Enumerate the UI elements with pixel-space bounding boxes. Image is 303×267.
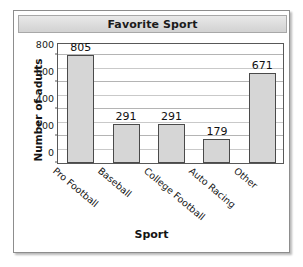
bar-group[interactable]: 671 [249, 42, 276, 163]
x-axis-category-labels: Pro FootballBaseballCollege FootballAuto… [57, 165, 284, 227]
bar-value-label: 291 [161, 110, 182, 123]
bar[interactable] [249, 73, 276, 163]
chart-card: Favorite Sport Number of adults 02004006… [13, 10, 290, 253]
bar-value-label: 291 [116, 110, 137, 123]
bar-value-label: 179 [206, 125, 227, 138]
y-tick-label: 0 [48, 147, 54, 158]
plot-area: 0200400600800 805291291179671 [57, 43, 284, 164]
bar-group[interactable]: 291 [113, 42, 140, 163]
chart-title: Favorite Sport [107, 18, 197, 31]
bar[interactable] [67, 55, 94, 163]
y-tick-label: 800 [36, 39, 54, 50]
x-tick-label: Other [232, 165, 260, 191]
bar-value-label: 671 [252, 59, 273, 72]
chart-title-banner: Favorite Sport [18, 15, 287, 33]
bar[interactable] [113, 124, 140, 163]
bar-group[interactable]: 805 [67, 42, 94, 163]
y-tick-label: 600 [36, 66, 54, 77]
bar[interactable] [203, 139, 230, 163]
bar[interactable] [158, 124, 185, 163]
bar-group[interactable]: 179 [203, 42, 230, 163]
bar-group[interactable]: 291 [158, 42, 185, 163]
x-tick-label: Baseball [96, 165, 134, 199]
y-tick-label: 400 [36, 93, 54, 104]
x-axis-title: Sport [14, 228, 289, 241]
x-tick-label: Pro Football [51, 165, 101, 209]
bar-series: 805291291179671 [58, 44, 283, 163]
y-tick-label: 200 [36, 120, 54, 131]
bar-value-label: 805 [70, 41, 91, 54]
